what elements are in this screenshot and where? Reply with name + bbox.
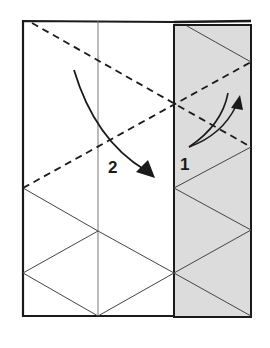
origami-diagram: 2 1 xyxy=(0,0,270,348)
arrow-2-curve xyxy=(74,70,145,170)
arrow-2-head xyxy=(136,160,155,178)
step-label-1: 1 xyxy=(180,155,189,174)
step-label-2: 2 xyxy=(108,158,117,177)
paper-top-edge-right xyxy=(174,21,251,22)
